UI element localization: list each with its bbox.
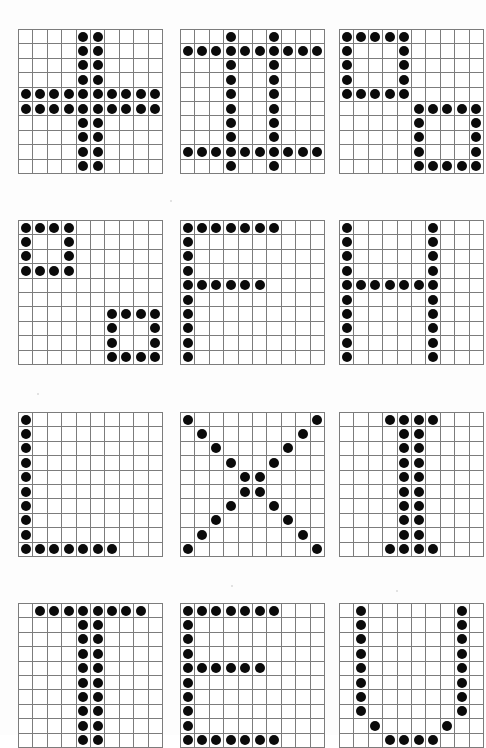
- matrix-cell-empty[interactable]: [33, 336, 47, 350]
- matrix-cell-filled[interactable]: [148, 336, 162, 350]
- matrix-cell-empty[interactable]: [252, 58, 266, 72]
- matrix-cell-empty[interactable]: [411, 307, 425, 321]
- matrix-cell-filled[interactable]: [19, 499, 33, 513]
- matrix-cell-empty[interactable]: [62, 292, 76, 306]
- matrix-cell-filled[interactable]: [340, 264, 354, 278]
- matrix-cell-filled[interactable]: [134, 350, 148, 364]
- matrix-cell-empty[interactable]: [252, 690, 266, 704]
- matrix-cell-empty[interactable]: [397, 661, 411, 675]
- matrix-cell-empty[interactable]: [440, 130, 454, 144]
- matrix-cell-empty[interactable]: [33, 145, 47, 159]
- matrix-cell-empty[interactable]: [238, 130, 252, 144]
- matrix-cell-empty[interactable]: [368, 336, 382, 350]
- matrix-cell-empty[interactable]: [181, 456, 195, 470]
- matrix-cell-empty[interactable]: [310, 101, 324, 115]
- matrix-cell-empty[interactable]: [19, 130, 33, 144]
- matrix-cell-filled[interactable]: [354, 675, 368, 689]
- matrix-cell-empty[interactable]: [440, 336, 454, 350]
- matrix-cell-empty[interactable]: [440, 604, 454, 618]
- matrix-cell-empty[interactable]: [296, 704, 310, 718]
- matrix-cell-empty[interactable]: [90, 484, 104, 498]
- matrix-cell-filled[interactable]: [209, 441, 223, 455]
- matrix-cell-filled[interactable]: [76, 690, 90, 704]
- matrix-cell-empty[interactable]: [119, 413, 133, 427]
- matrix-cell-empty[interactable]: [368, 292, 382, 306]
- matrix-cell-empty[interactable]: [397, 350, 411, 364]
- matrix-cell-empty[interactable]: [281, 528, 295, 542]
- matrix-cell-empty[interactable]: [90, 264, 104, 278]
- matrix-cell-empty[interactable]: [47, 73, 61, 87]
- matrix-cell-empty[interactable]: [368, 661, 382, 675]
- matrix-cell-filled[interactable]: [181, 145, 195, 159]
- matrix-cell-empty[interactable]: [238, 528, 252, 542]
- matrix-cell-empty[interactable]: [397, 647, 411, 661]
- matrix-cell-empty[interactable]: [148, 733, 162, 747]
- matrix-cell-empty[interactable]: [33, 73, 47, 87]
- matrix-cell-filled[interactable]: [76, 542, 90, 556]
- matrix-cell-empty[interactable]: [411, 675, 425, 689]
- matrix-cell-filled[interactable]: [224, 456, 238, 470]
- matrix-cell-empty[interactable]: [340, 145, 354, 159]
- matrix-cell-empty[interactable]: [397, 235, 411, 249]
- matrix-cell-empty[interactable]: [224, 528, 238, 542]
- matrix-cell-empty[interactable]: [354, 470, 368, 484]
- matrix-cell-empty[interactable]: [238, 719, 252, 733]
- matrix-cell-filled[interactable]: [62, 542, 76, 556]
- matrix-cell-empty[interactable]: [296, 292, 310, 306]
- matrix-cell-filled[interactable]: [397, 87, 411, 101]
- matrix-cell-empty[interactable]: [267, 292, 281, 306]
- matrix-cell-empty[interactable]: [455, 145, 469, 159]
- matrix-cell-empty[interactable]: [134, 470, 148, 484]
- matrix-cell-empty[interactable]: [47, 58, 61, 72]
- matrix-cell-empty[interactable]: [209, 528, 223, 542]
- matrix-cell-filled[interactable]: [209, 661, 223, 675]
- matrix-cell-empty[interactable]: [181, 484, 195, 498]
- matrix-cell-empty[interactable]: [105, 661, 119, 675]
- matrix-cell-empty[interactable]: [281, 413, 295, 427]
- matrix-cell-empty[interactable]: [281, 249, 295, 263]
- matrix-cell-filled[interactable]: [310, 542, 324, 556]
- matrix-cell-empty[interactable]: [411, 87, 425, 101]
- matrix-cell-filled[interactable]: [455, 675, 469, 689]
- matrix-cell-empty[interactable]: [296, 513, 310, 527]
- matrix-cell-empty[interactable]: [296, 632, 310, 646]
- matrix-cell-empty[interactable]: [426, 484, 440, 498]
- matrix-cell-empty[interactable]: [47, 350, 61, 364]
- matrix-cell-filled[interactable]: [224, 73, 238, 87]
- matrix-cell-filled[interactable]: [426, 336, 440, 350]
- matrix-cell-empty[interactable]: [119, 513, 133, 527]
- matrix-cell-empty[interactable]: [76, 456, 90, 470]
- matrix-cell-filled[interactable]: [19, 456, 33, 470]
- matrix-cell-filled[interactable]: [90, 73, 104, 87]
- matrix-cell-empty[interactable]: [148, 528, 162, 542]
- matrix-cell-empty[interactable]: [368, 618, 382, 632]
- matrix-cell-empty[interactable]: [148, 499, 162, 513]
- matrix-cell-filled[interactable]: [47, 101, 61, 115]
- matrix-cell-empty[interactable]: [252, 130, 266, 144]
- matrix-cell-empty[interactable]: [209, 647, 223, 661]
- matrix-cell-filled[interactable]: [181, 733, 195, 747]
- matrix-cell-filled[interactable]: [90, 632, 104, 646]
- matrix-cell-empty[interactable]: [440, 221, 454, 235]
- matrix-cell-filled[interactable]: [148, 350, 162, 364]
- matrix-cell-empty[interactable]: [455, 427, 469, 441]
- matrix-cell-filled[interactable]: [90, 130, 104, 144]
- matrix-cell-empty[interactable]: [469, 470, 483, 484]
- matrix-cell-empty[interactable]: [238, 336, 252, 350]
- matrix-cell-empty[interactable]: [119, 336, 133, 350]
- matrix-cell-empty[interactable]: [238, 441, 252, 455]
- matrix-cell-empty[interactable]: [62, 719, 76, 733]
- matrix-cell-empty[interactable]: [455, 58, 469, 72]
- matrix-cell-empty[interactable]: [119, 292, 133, 306]
- matrix-cell-filled[interactable]: [33, 221, 47, 235]
- matrix-cell-empty[interactable]: [383, 264, 397, 278]
- matrix-cell-filled[interactable]: [455, 647, 469, 661]
- matrix-cell-empty[interactable]: [469, 632, 483, 646]
- matrix-cell-empty[interactable]: [397, 221, 411, 235]
- matrix-cell-empty[interactable]: [310, 221, 324, 235]
- matrix-cell-empty[interactable]: [281, 87, 295, 101]
- matrix-cell-empty[interactable]: [310, 116, 324, 130]
- matrix-cell-filled[interactable]: [411, 159, 425, 173]
- matrix-cell-empty[interactable]: [105, 484, 119, 498]
- matrix-cell-empty[interactable]: [440, 321, 454, 335]
